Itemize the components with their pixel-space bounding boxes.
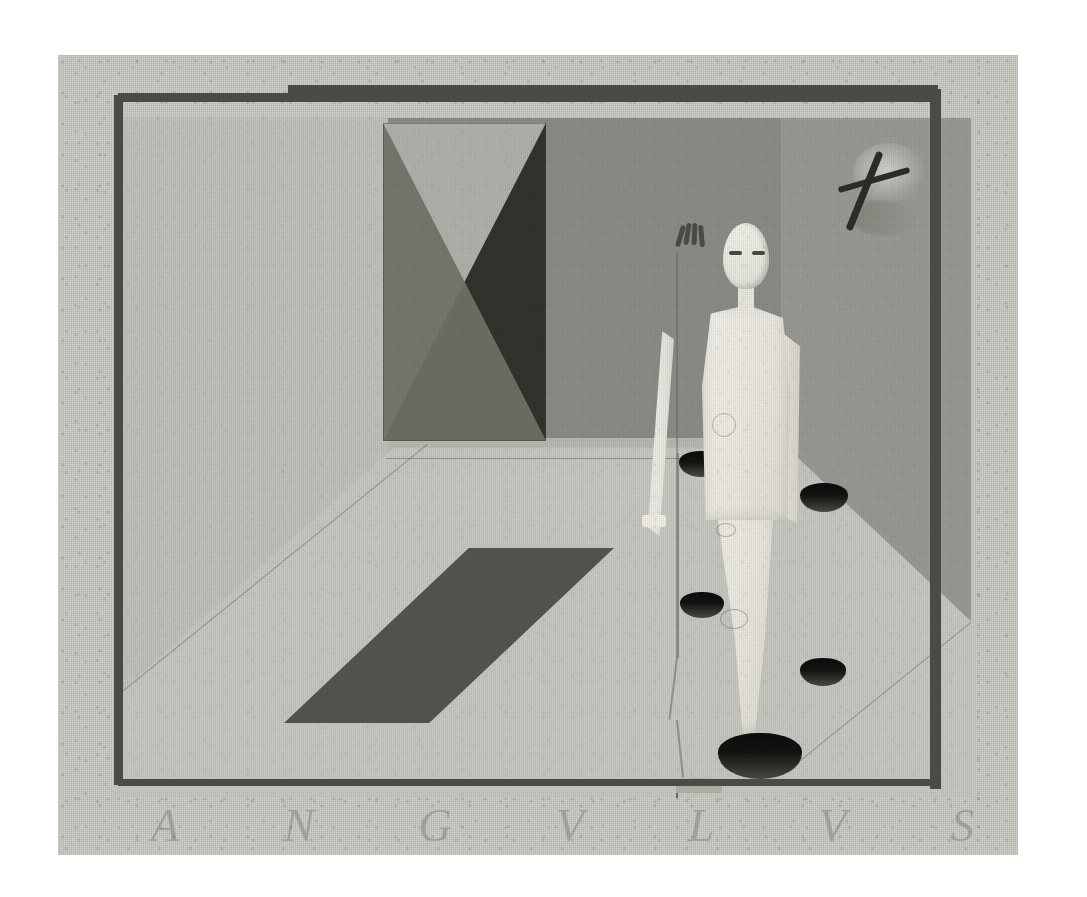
figure-eye-right: [752, 251, 765, 255]
artwork-root: A N G V L V S: [0, 0, 1087, 897]
robe-scribble-circle: [712, 413, 736, 437]
figure-lapel-line: [676, 453, 679, 658]
painted-picture-field: [116, 118, 971, 798]
robe-scribble-mark: [716, 523, 736, 537]
figure-sleeve-cuff: [642, 515, 666, 527]
finger-4: [698, 225, 705, 247]
bowtie-outline: [383, 123, 546, 441]
frame-border-right: [930, 89, 941, 789]
standing-figure: [676, 223, 806, 753]
finger-3: [692, 223, 698, 245]
inscription-angvlvs: A N G V L V S: [133, 795, 993, 855]
robe-scribble-oval: [720, 609, 748, 629]
inscription-letter-a: A: [151, 799, 180, 852]
figure-eye-left: [729, 251, 742, 255]
frame-border-top: [118, 93, 938, 102]
cross-motif: [831, 143, 941, 263]
canvas-support: A N G V L V S: [58, 55, 1018, 855]
brush-smear: [853, 201, 917, 235]
frame-border-left: [114, 95, 123, 785]
inscription-letter-v2: V: [819, 799, 848, 852]
inscription-letter-s: S: [951, 799, 975, 852]
figure-torso: [702, 305, 790, 520]
inscription-letter-g: G: [419, 799, 453, 852]
figure-hand: [676, 223, 710, 253]
inscription-letter-l: L: [689, 799, 716, 852]
inscription-letter-n: N: [283, 799, 315, 852]
inscription-letter-v1: V: [556, 799, 585, 852]
frame-border-bottom: [118, 779, 938, 786]
figure-head: [723, 223, 769, 289]
bowtie-motif: [383, 123, 546, 441]
figure-leg-seam: [676, 253, 678, 453]
